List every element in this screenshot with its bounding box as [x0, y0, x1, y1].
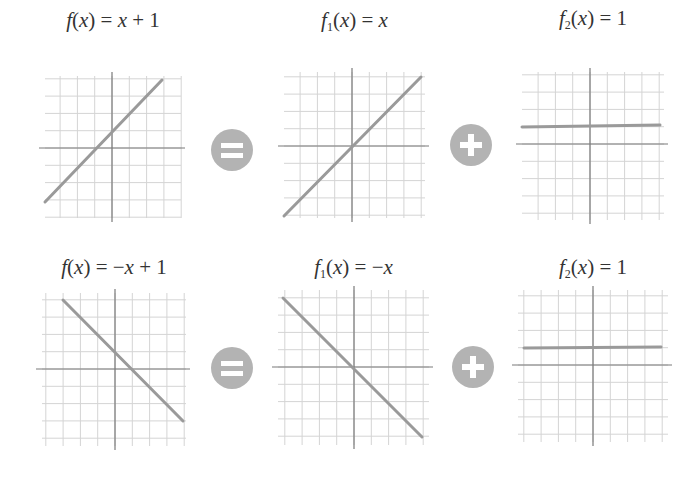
graph-panel	[272, 286, 433, 449]
function-label: f1(x) = −x	[314, 255, 393, 282]
function-label: f(x) = −x + 1	[61, 255, 167, 280]
equals-icon	[211, 129, 253, 171]
graph-panel	[36, 289, 190, 450]
graph-panel	[39, 72, 185, 222]
function-label: f1(x) = x	[321, 8, 388, 35]
function-line	[63, 300, 183, 421]
graph-panel	[278, 68, 429, 222]
plus-icon	[452, 346, 494, 388]
function-line	[522, 125, 660, 127]
graph-panel	[512, 286, 672, 446]
function-line	[45, 80, 162, 202]
function-label: f2(x) = 1	[559, 255, 627, 282]
function-label: f(x) = x + 1	[66, 8, 160, 33]
plus-icon	[450, 124, 492, 166]
function-label: f2(x) = 1	[559, 6, 627, 33]
graphs-canvas	[0, 0, 697, 478]
equals-icon	[211, 347, 253, 389]
graph-panel	[516, 68, 668, 224]
function-line	[524, 347, 661, 348]
